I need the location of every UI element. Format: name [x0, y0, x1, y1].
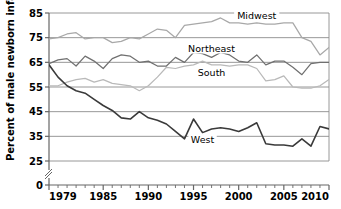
x-tick-label-1979: 1979	[49, 191, 77, 202]
y-tick-label-55: 55	[29, 82, 43, 93]
x-tick-label-2000: 2000	[225, 191, 253, 202]
y-tick-label-45: 45	[29, 106, 43, 117]
series-label-northeast: Northeast	[188, 43, 235, 54]
x-tick-label-1990: 1990	[134, 191, 162, 202]
y-tick-label-35: 35	[29, 131, 43, 142]
series-line-south	[49, 61, 329, 91]
x-tick-label-2005: 2005	[270, 191, 298, 202]
y-axis-break-marks	[45, 169, 52, 179]
series-label-midwest: Midwest	[237, 10, 276, 21]
x-tick-label-2010: 2010	[301, 191, 329, 202]
y-tick-label-65: 65	[29, 57, 43, 68]
series-label-west: West	[191, 134, 215, 145]
x-tick-label-1985: 1985	[89, 191, 117, 202]
series-label-south: South	[198, 67, 226, 78]
y-tick-label-85: 85	[29, 8, 43, 19]
x-tick-label-1995: 1995	[180, 191, 208, 202]
line-chart: Percent of male newborn infants 02535455…	[0, 0, 341, 209]
y-tick-label-25: 25	[29, 156, 43, 167]
series-line-northeast	[49, 52, 329, 74]
y-tick-label-0: 0	[36, 180, 43, 191]
y-tick-label-75: 75	[29, 32, 43, 43]
series-group	[49, 18, 329, 146]
chart-plot-area: 0253545556575851979198519901995200020052…	[0, 0, 341, 209]
